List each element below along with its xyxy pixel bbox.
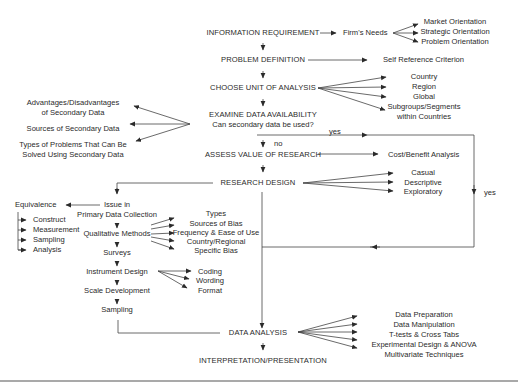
unit-within-countries: within Countries: [397, 112, 451, 122]
issue-line1: Issue in: [104, 200, 130, 210]
analysis-experimental-design: Experimental Design & ANOVA: [372, 340, 477, 350]
secondary-adv-line1: Advantages/Disadvantages: [27, 98, 119, 108]
step-problem-definition: PROBLEM DEFINITION: [221, 55, 305, 65]
equivalence-analysis: Analysis: [33, 245, 61, 255]
qual-types: Types: [206, 209, 226, 219]
secondary-sources: Sources of Secondary Data: [27, 124, 120, 134]
issue-line2: Primary Data Collection: [77, 210, 157, 220]
unit-region: Region: [412, 82, 436, 92]
analysis-ttests: T-tests & Cross Tabs: [389, 330, 459, 340]
no-label: no: [274, 139, 282, 149]
scale-development: Scale Development: [84, 286, 150, 296]
unit-global: Global: [413, 92, 435, 102]
examine-question: Can secondary data be used?: [212, 120, 313, 130]
secondary-adv-line2: of Secondary Data: [42, 108, 105, 118]
yes-label-right: yes: [484, 188, 496, 198]
sampling: Sampling: [101, 305, 133, 315]
firms-needs: Firm's Needs: [343, 28, 388, 38]
step-assess-value-of-research: ASSESS VALUE OF RESEARCH: [205, 150, 321, 160]
step-data-analysis: DATA ANALYSIS: [229, 328, 287, 338]
instrument-wording: Wording: [196, 276, 224, 286]
yes-label-top: yes: [329, 127, 341, 137]
equivalence-measurement: Measurement: [33, 225, 79, 235]
unit-subgroups: Subgroups/Segments: [387, 102, 460, 112]
analysis-data-preparation: Data Preparation: [395, 310, 452, 320]
qual-specific-bias: Specific Bias: [194, 246, 237, 256]
step-research-design: RESEARCH DESIGN: [221, 178, 296, 188]
research-exploratory: Exploratory: [404, 187, 442, 197]
secondary-types-line2: Solved Using Secondary Data: [22, 150, 123, 160]
secondary-types-line1: Types of Problems That Can Be: [19, 140, 127, 150]
equivalence-construct: Construct: [33, 215, 66, 225]
problem-orientation: Problem Orientation: [421, 37, 489, 47]
equivalence: Equivalence: [15, 200, 56, 210]
research-casual: Casual: [411, 168, 435, 178]
equivalence-sampling: Sampling: [33, 235, 65, 245]
step-information-requirement: INFORMATION REQUIREMENT: [206, 28, 319, 38]
qualitative-methods: Qualitative Methods: [83, 229, 150, 239]
cost-benefit-analysis: Cost/Benefit Analysis: [388, 150, 459, 160]
step-interpretation-presentation: INTERPRETATION/PRESENTATION: [199, 356, 327, 366]
instrument-format: Format: [198, 286, 222, 296]
instrument-design: Instrument Design: [86, 267, 148, 277]
surveys: Surveys: [103, 248, 130, 258]
step-examine-data-availability: EXAMINE DATA AVAILABILITY: [209, 110, 317, 120]
unit-country: Country: [411, 72, 438, 82]
analysis-data-manipulation: Data Manipulation: [393, 320, 454, 330]
self-reference-criterion: Self Reference Criterion: [383, 55, 464, 65]
step-choose-unit-of-analysis: CHOOSE UNIT OF ANALYSIS: [210, 83, 316, 93]
analysis-multivariate: Multivariate Techniques: [384, 350, 463, 360]
market-orientation: Market Orientation: [424, 17, 486, 27]
strategic-orientation: Strategic Orientation: [420, 27, 489, 37]
